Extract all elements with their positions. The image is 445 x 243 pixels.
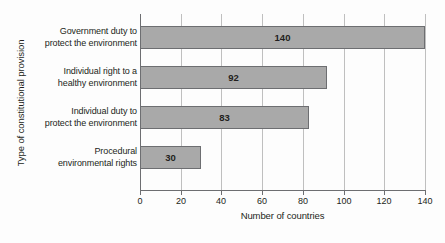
x-tick-mark-40 bbox=[221, 191, 222, 195]
category-label-1-line-0: Individual right to a bbox=[25, 66, 137, 78]
x-axis-title: Number of countries bbox=[140, 210, 425, 221]
gridline-140 bbox=[425, 14, 426, 191]
x-tick-label-80: 80 bbox=[288, 196, 318, 206]
category-label-1: Individual right to a healthy environmen… bbox=[25, 66, 137, 89]
x-tick-mark-20 bbox=[181, 191, 182, 195]
x-tick-mark-0 bbox=[140, 191, 141, 195]
x-tick-mark-60 bbox=[262, 191, 263, 195]
x-tick-label-60: 60 bbox=[247, 196, 277, 206]
y-axis-category-labels: Government duty to protect the environme… bbox=[20, 0, 137, 243]
category-label-2: Individual duty to protect the environme… bbox=[25, 106, 137, 129]
category-label-3-line-1: environmental rights bbox=[25, 158, 137, 170]
x-tick-mark-140 bbox=[425, 191, 426, 195]
bar-2 bbox=[140, 106, 309, 129]
x-tick-label-120: 120 bbox=[369, 196, 399, 206]
x-tick-label-20: 20 bbox=[166, 196, 196, 206]
category-label-2-line-0: Individual duty to bbox=[25, 106, 137, 118]
x-tick-label-40: 40 bbox=[206, 196, 236, 206]
category-label-0-line-1: protect the environment bbox=[25, 38, 137, 50]
category-label-0: Government duty to protect the environme… bbox=[25, 26, 137, 49]
category-label-3-line-0: Procedural bbox=[25, 146, 137, 158]
category-label-3: Procedural environmental rights bbox=[25, 146, 137, 169]
bar-1 bbox=[140, 66, 327, 89]
category-label-0-line-0: Government duty to bbox=[25, 26, 137, 38]
x-tick-mark-100 bbox=[344, 191, 345, 195]
bar-3 bbox=[140, 146, 201, 169]
category-label-2-line-1: protect the environment bbox=[25, 118, 137, 130]
bar-0 bbox=[140, 26, 425, 49]
x-tick-label-100: 100 bbox=[329, 196, 359, 206]
category-label-1-line-1: healthy environment bbox=[25, 78, 137, 90]
x-tick-label-0: 0 bbox=[125, 196, 155, 206]
x-tick-mark-80 bbox=[303, 191, 304, 195]
bar-chart: Type of constitutional provision Governm… bbox=[0, 0, 445, 243]
x-tick-mark-120 bbox=[384, 191, 385, 195]
x-tick-label-140: 140 bbox=[410, 196, 440, 206]
